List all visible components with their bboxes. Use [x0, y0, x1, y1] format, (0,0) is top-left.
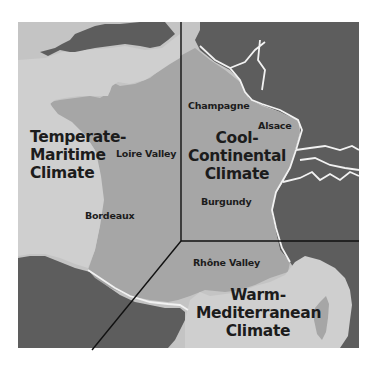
climate-label-line: Warm- — [196, 286, 320, 304]
climate-label-line: Climate — [30, 164, 126, 182]
climate-label-cool-continental: Cool- Continental Climate — [186, 129, 288, 183]
region-label-bordeaux: Bordeaux — [85, 210, 134, 221]
france-climate-map — [0, 0, 378, 366]
climate-label-line: Climate — [186, 165, 288, 183]
climate-label-line: Maritime — [30, 146, 126, 164]
region-label-burgundy: Burgundy — [201, 196, 251, 207]
climate-label-line: Climate — [196, 322, 320, 340]
region-label-alsace: Alsace — [258, 120, 292, 131]
climate-label-line: Mediterranean — [196, 304, 320, 322]
climate-label-temperate-maritime: Temperate- Maritime Climate — [30, 128, 126, 182]
region-label-loire-valley: Loire Valley — [116, 148, 176, 159]
region-label-rhone-valley: Rhône Valley — [193, 257, 260, 268]
climate-label-warm-mediterranean: Warm- Mediterranean Climate — [196, 286, 320, 340]
climate-label-line: Cool- — [186, 129, 288, 147]
region-label-champagne: Champagne — [188, 100, 249, 111]
climate-label-line: Continental — [186, 147, 288, 165]
climate-label-line: Temperate- — [30, 128, 126, 146]
